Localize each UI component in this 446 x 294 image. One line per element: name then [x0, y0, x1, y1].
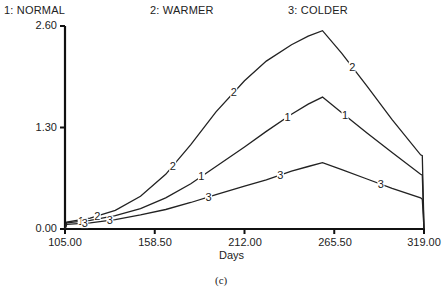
series-markers: 1111222233333: [78, 61, 385, 229]
y-tick-bottom: 0.00: [7, 222, 57, 234]
figure-caption: (c): [215, 274, 227, 286]
svg-text:2: 2: [170, 160, 176, 172]
svg-text:1: 1: [285, 111, 291, 123]
svg-text:3: 3: [82, 217, 88, 229]
svg-text:2: 2: [349, 61, 355, 73]
y-tick-mid: 1.30: [7, 121, 57, 133]
series-lines: [65, 31, 424, 229]
svg-text:3: 3: [107, 214, 113, 226]
x-axis-label: Days: [219, 249, 244, 261]
svg-text:1: 1: [342, 109, 348, 121]
x-tick-4: 319.00: [399, 236, 446, 248]
y-tick-top: 2.60: [7, 19, 57, 31]
x-tick-3: 265.50: [310, 236, 360, 248]
x-tick-0: 105.00: [40, 236, 90, 248]
x-tick-2: 212.00: [220, 236, 270, 248]
axes: [60, 26, 425, 234]
svg-text:3: 3: [378, 178, 384, 190]
svg-text:2: 2: [94, 210, 100, 222]
svg-text:1: 1: [198, 170, 204, 182]
svg-text:2: 2: [231, 86, 237, 98]
svg-text:3: 3: [206, 191, 212, 203]
x-tick-1: 158.50: [130, 236, 180, 248]
svg-text:3: 3: [277, 169, 283, 181]
